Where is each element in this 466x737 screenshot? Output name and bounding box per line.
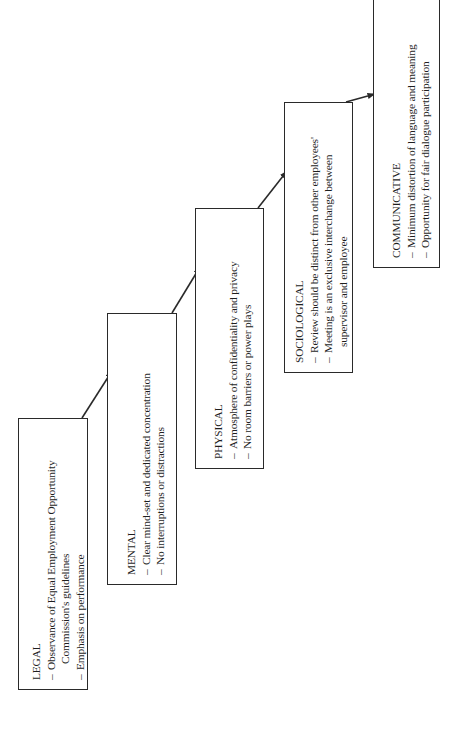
stage-items: Clear mind-set and dedicated concentrati… xyxy=(139,323,168,575)
stage-item: No room barriers or power plays xyxy=(240,218,255,459)
stage-title: COMMUNICATIVE xyxy=(389,5,404,258)
stage-item: Review should be distinct from other emp… xyxy=(307,112,322,363)
stage-box-legal: LEGAL Observance of Equal Employment Opp… xyxy=(18,418,88,690)
staircase-diagram: LEGAL Observance of Equal Employment Opp… xyxy=(0,0,466,737)
stage-items: Review should be distinct from other emp… xyxy=(307,112,351,363)
stage-items: Atmosphere of confidentiality and privac… xyxy=(226,218,255,459)
arrow-physical-to-sociological xyxy=(258,171,287,208)
stage-item: Minimum distortion of language and meani… xyxy=(404,5,419,258)
stage-item: Opportunity for fair dialogue participat… xyxy=(418,5,433,258)
stage-box-mental: MENTAL Clear mind-set and dedicated conc… xyxy=(107,313,177,585)
stage-title: PHYSICAL xyxy=(211,218,226,459)
stage-title: LEGAL xyxy=(29,428,44,680)
stage-items: Observance of Equal Employment Opportuni… xyxy=(44,428,88,680)
stage-box-physical: PHYSICAL Atmosphere of confidentiality a… xyxy=(195,208,264,469)
stage-items: Minimum distortion of language and meani… xyxy=(404,5,433,258)
stage-title: MENTAL xyxy=(124,323,139,575)
arrow-sociological-to-communicative xyxy=(346,94,375,102)
stage-item: Meeting is an exclusive interchange betw… xyxy=(321,112,350,363)
stage-item: Clear mind-set and dedicated concentrati… xyxy=(139,323,154,575)
stage-item: Observance of Equal Employment Opportuni… xyxy=(44,428,73,680)
stage-item: No interruptions or distractions xyxy=(153,323,168,575)
stage-item: Atmosphere of confidentiality and privac… xyxy=(226,218,241,459)
stage-title: SOCIOLOGICAL xyxy=(292,112,307,363)
stage-box-communicative: COMMUNICATIVE Minimum distortion of lang… xyxy=(373,0,440,268)
stage-box-sociological: SOCIOLOGICAL Review should be distinct f… xyxy=(284,102,353,373)
stage-item: Emphasis on performance xyxy=(73,428,88,680)
